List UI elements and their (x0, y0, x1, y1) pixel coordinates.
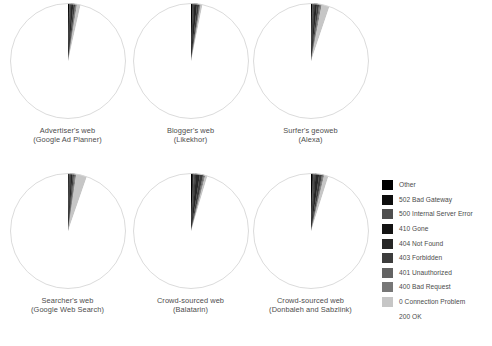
pie-bloggers-web-graphic (132, 2, 250, 120)
caption-line-1: Crowd-sourced web (277, 296, 344, 305)
legend-item-500-internal-server-error: 500 Internal Server Error (382, 207, 492, 222)
legend-label: 502 Bad Gateway (399, 196, 452, 204)
pie-chart-bloggers-web: Blogger's web (Likekhor) (128, 2, 253, 145)
legend-label: Other (399, 181, 416, 189)
pie-caption-surfers-geoweb: Surfer's geoweb (Alexa) (248, 126, 373, 145)
pie-chart-figure: Advertiser's web (Google Ad Planner) Blo… (0, 0, 492, 346)
pie-caption-searchers-web: Searcher's web (Google Web Search) (5, 296, 130, 315)
legend-label: 500 Internal Server Error (399, 210, 473, 218)
legend-swatch (382, 312, 393, 322)
legend-swatch (382, 209, 393, 219)
pie-caption-bloggers-web: Blogger's web (Likekhor) (128, 126, 253, 145)
pie-slice (133, 174, 248, 289)
legend-swatch (382, 253, 393, 263)
legend-label: 401 Unauthorized (399, 269, 452, 277)
pie-caption-advertisers-web: Advertiser's web (Google Ad Planner) (5, 126, 130, 145)
pie-surfers-geoweb-graphic (252, 2, 370, 120)
pie-svg (132, 172, 250, 290)
legend-swatch (382, 282, 393, 292)
pie-advertisers-web-graphic (9, 2, 127, 120)
pie-chart-grid: Advertiser's web (Google Ad Planner) Blo… (0, 0, 375, 346)
caption-line-2: (Balatarin) (128, 305, 253, 314)
pie-chart-searchers-web: Searcher's web (Google Web Search) (5, 172, 130, 315)
caption-line-2: (Google Ad Planner) (5, 135, 130, 144)
legend-item-200-ok: 200 OK (382, 309, 492, 324)
legend-label: 400 Bad Request (399, 283, 451, 291)
pie-caption-crowd-sourced-balatarin: Crowd-sourced web (Balatarin) (128, 296, 253, 315)
legend-swatch (382, 297, 393, 307)
legend-swatch (382, 239, 393, 249)
pie-svg (9, 172, 127, 290)
pie-caption-crowd-sourced-donbaleh: Crowd-sourced web (Donbaleh and Sabzlink… (248, 296, 373, 315)
caption-line-1: Crowd-sourced web (157, 296, 224, 305)
legend-label: 410 Gone (399, 225, 428, 233)
pie-slice (10, 174, 125, 289)
caption-line-1: Advertiser's web (40, 126, 95, 135)
legend-item-403-forbidden: 403 Forbidden (382, 251, 492, 266)
legend-item-502-bad-gateway: 502 Bad Gateway (382, 193, 492, 208)
legend-swatch (382, 180, 393, 190)
caption-line-2: (Donbaleh and Sabzlink) (248, 305, 373, 314)
legend-label: 403 Forbidden (399, 254, 442, 262)
legend-label: 200 OK (399, 313, 422, 321)
legend-swatch (382, 268, 393, 278)
pie-chart-surfers-geoweb: Surfer's geoweb (Alexa) (248, 2, 373, 145)
pie-slice (253, 4, 368, 119)
pie-svg (252, 172, 370, 290)
pie-chart-crowd-sourced-donbaleh: Crowd-sourced web (Donbaleh and Sabzlink… (248, 172, 373, 315)
legend-item-410-gone: 410 Gone (382, 222, 492, 237)
pie-searchers-web-graphic (9, 172, 127, 290)
legend-item-400-bad-request: 400 Bad Request (382, 280, 492, 295)
legend-item-401-unauthorized: 401 Unauthorized (382, 266, 492, 281)
legend-label: 0 Connection Problem (399, 298, 465, 306)
legend-item-404-not-found: 404 Not Found (382, 236, 492, 251)
legend-swatch (382, 224, 393, 234)
caption-line-2: (Likekhor) (128, 135, 253, 144)
pie-chart-crowd-sourced-balatarin: Crowd-sourced web (Balatarin) (128, 172, 253, 315)
pie-svg (252, 2, 370, 120)
chart-legend: Other 502 Bad Gateway 500 Internal Serve… (382, 178, 492, 324)
pie-slice (253, 174, 368, 289)
pie-chart-advertisers-web: Advertiser's web (Google Ad Planner) (5, 2, 130, 145)
pie-slice (133, 4, 248, 119)
legend-item-other: Other (382, 178, 492, 193)
caption-line-1: Searcher's web (42, 296, 94, 305)
caption-line-2: (Alexa) (248, 135, 373, 144)
pie-slice (10, 4, 125, 119)
legend-item-0-connection-problem: 0 Connection Problem (382, 295, 492, 310)
legend-swatch (382, 195, 393, 205)
caption-line-1: Blogger's web (167, 126, 214, 135)
pie-svg (9, 2, 127, 120)
pie-svg (132, 2, 250, 120)
pie-donbaleh-graphic (252, 172, 370, 290)
caption-line-2: (Google Web Search) (5, 305, 130, 314)
pie-balatarin-graphic (132, 172, 250, 290)
caption-line-1: Surfer's geoweb (283, 126, 337, 135)
legend-label: 404 Not Found (399, 240, 443, 248)
